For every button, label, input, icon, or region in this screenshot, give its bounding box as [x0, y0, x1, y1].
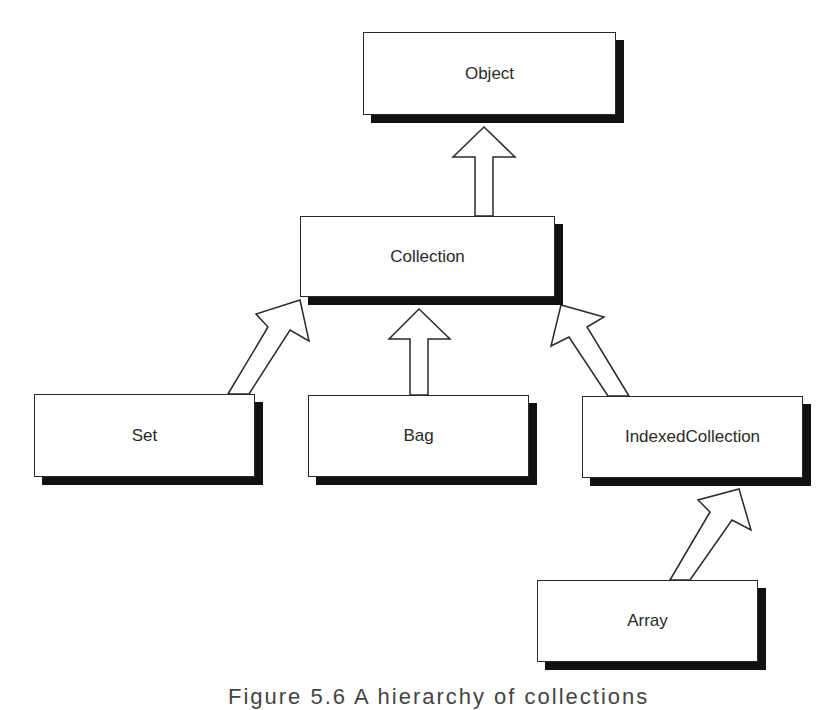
class-label: Collection — [390, 247, 465, 267]
arrow-array-to-indexedcollection — [670, 489, 751, 580]
class-box-object: Object — [363, 32, 616, 115]
class-box-indexedcollection: IndexedCollection — [582, 396, 803, 478]
arrow-bag-to-collection — [389, 309, 450, 395]
class-box-array: Array — [537, 580, 758, 662]
class-box-collection: Collection — [300, 216, 555, 297]
class-label: Array — [627, 611, 668, 631]
class-box-set: Set — [34, 394, 255, 477]
arrow-collection-to-object — [453, 127, 515, 216]
class-label: Object — [465, 64, 514, 84]
arrow-set-to-collection — [228, 300, 309, 394]
figure-caption: Figure 5.6 A hierarchy of collections — [228, 684, 649, 710]
arrow-indexedcollection-to-collection — [551, 305, 629, 396]
class-label: IndexedCollection — [625, 427, 760, 447]
class-box-bag: Bag — [308, 395, 529, 477]
class-label: Bag — [403, 426, 433, 446]
class-label: Set — [132, 426, 158, 446]
